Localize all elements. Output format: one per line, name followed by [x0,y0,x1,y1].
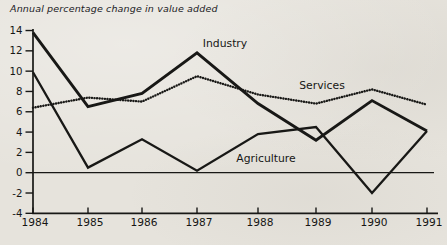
x-tick-label: 1991 [416,216,443,228]
industry-label: Industry [203,37,248,50]
x-tick-label: 1989 [305,216,332,228]
y-tick-label: 10 [10,66,23,77]
y-tick-label: 2 [16,147,22,158]
scanned-chart-page: Annual percentage change in value added … [0,0,447,245]
y-tick-label: 6 [16,106,22,117]
chart-canvas: 14121086420-2-41984198519861987198819891… [0,0,447,245]
agriculture-label: Agriculture [236,152,296,165]
x-tick-label: 1984 [22,216,49,228]
x-tick-label: 1988 [247,216,274,228]
y-tick-label: 4 [16,127,22,138]
x-tick-label: 1985 [77,216,104,228]
y-tick-label: 12 [10,45,23,56]
x-tick-label: 1986 [131,216,158,228]
y-tick-label: -2 [12,188,22,199]
x-tick-label: 1990 [361,216,388,228]
y-tick-label: 0 [16,167,22,178]
services-label: Services [299,79,345,92]
y-tick-label: 8 [16,86,22,97]
y-tick-label: 14 [10,25,23,36]
x-tick-label: 1987 [186,216,213,228]
